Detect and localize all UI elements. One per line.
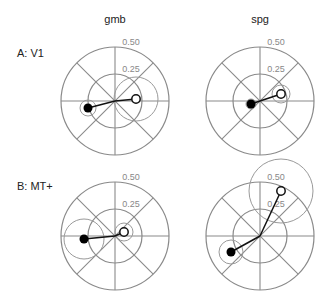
radial-tick-label: 0.50 [267, 37, 285, 47]
open-marker [277, 187, 285, 195]
filled-marker [84, 104, 93, 113]
open-marker [120, 228, 128, 236]
radial-tick-label: 0.25 [122, 199, 140, 209]
open-marker [132, 95, 140, 103]
filled-marker [227, 248, 236, 257]
polar-plots: 0.500.250.500.250.500.250.500.25 [0, 0, 334, 305]
filled-marker [80, 235, 89, 244]
open-vector [260, 191, 281, 236]
radial-tick-label: 0.50 [122, 37, 140, 47]
radial-tick-label: 0.50 [122, 172, 140, 182]
filled-marker [247, 100, 256, 109]
filled-vector [231, 236, 260, 252]
radial-tick-label: 0.25 [267, 64, 285, 74]
radial-tick-label: 0.50 [267, 172, 285, 182]
open-marker [277, 90, 285, 98]
radial-tick-label: 0.25 [122, 64, 140, 74]
